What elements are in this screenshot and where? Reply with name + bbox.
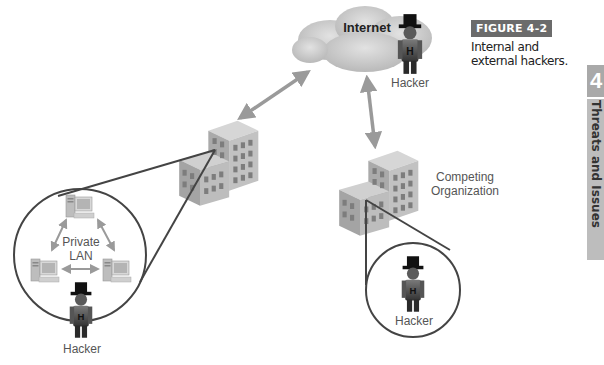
company-internet-link [240,72,308,118]
internal-hacker-label: Hacker [60,342,104,356]
external-hacker-label: Hacker [390,76,430,90]
competitor-label-line2: Organization [420,184,510,198]
private-lan-label-line2: LAN [58,249,104,263]
competitor-internet-link [367,78,375,146]
figure-caption: Internal and external hackers. [471,40,581,68]
chapter-number: 4 [587,65,604,97]
competitor-building-icon [339,151,418,236]
internal-hacker-icon [70,282,93,337]
competitor-hacker-icon [402,256,425,311]
private-lan-label: Private LAN [58,235,104,263]
competitor-hacker-label: Hacker [392,314,436,328]
lan-computer-right-icon [103,259,131,282]
figure-tag: FIGURE 4-2 [471,20,552,37]
lan-computer-left-icon [31,259,59,282]
chapter-section-title: Threats and Issues [589,100,603,228]
private-lan-label-line1: Private [58,235,104,249]
internet-label: Internet [312,20,422,35]
competitor-label: Competing Organization [420,170,510,198]
competitor-label-line1: Competing [420,170,510,184]
side-tab-divider [587,97,604,99]
lan-computer-top-icon [66,195,94,218]
